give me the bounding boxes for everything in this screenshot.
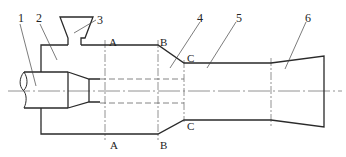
part-label-4: 4 [197,12,203,24]
nozzle-top [68,72,100,79]
part-label-2: 2 [36,12,42,24]
leader-5 [207,22,236,68]
section-label-b-top: B [160,37,167,48]
part-label-1: 1 [18,12,24,24]
leader-3 [74,20,96,33]
section-label-b-bottom: B [160,140,167,151]
pipe-break-2 [24,72,27,90]
pipe-break [20,72,26,108]
section-label-a-top: A [109,37,117,48]
part-label-6: 6 [305,12,311,24]
leader-1 [20,24,36,86]
hopper [60,17,93,45]
section-label-c-bottom: C [187,121,194,132]
section-label-c-top: C [187,53,194,64]
leader-2 [40,24,57,60]
part-label-3: 3 [97,14,103,26]
leader-6 [285,22,306,69]
ejector-diagram [0,0,346,157]
housing-top [41,45,68,72]
section-label-a-bottom: A [110,140,118,151]
leader-4 [170,22,200,68]
nozzle-bottom [68,102,100,108]
housing-top-2 [41,45,324,134]
part-label-5: 5 [236,12,242,24]
